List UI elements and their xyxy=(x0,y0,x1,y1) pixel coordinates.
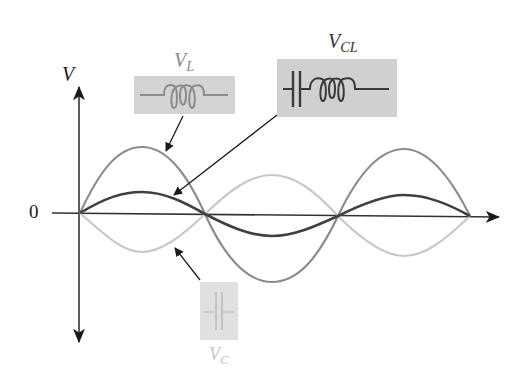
vcl-label: VCL xyxy=(328,31,358,54)
vl-label: VL xyxy=(174,50,194,73)
x-axis xyxy=(52,213,499,217)
capacitor-symbol-box xyxy=(200,282,238,340)
y-axis-label: V xyxy=(62,64,74,84)
vcl-pointer-arrow xyxy=(174,115,277,195)
vl-pointer-arrow xyxy=(166,116,183,151)
vc-label: VC xyxy=(209,345,229,367)
lc-voltage-diagram: V 0 VL VCL VC xyxy=(0,0,518,383)
capacitor-inductor-symbol-box xyxy=(277,59,397,117)
inductor-symbol-box xyxy=(134,76,235,114)
zero-label: 0 xyxy=(29,202,39,221)
inductor-icon xyxy=(134,76,235,114)
capacitor-icon xyxy=(200,282,238,340)
capacitor-inductor-icon xyxy=(277,59,397,117)
vc-pointer-arrow xyxy=(175,248,200,280)
waveform-plot xyxy=(0,0,518,383)
